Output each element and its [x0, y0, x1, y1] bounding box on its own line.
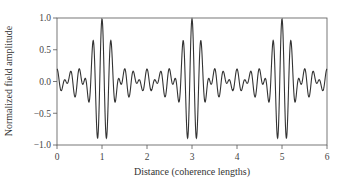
x-tick-label: 2 — [145, 152, 150, 162]
plot-frame — [57, 18, 327, 145]
x-tick-label: 0 — [55, 152, 60, 162]
y-tick-label: −0.5 — [34, 109, 51, 119]
x-axis: 0123456 — [55, 145, 330, 162]
y-tick-label: −1.0 — [34, 140, 51, 150]
x-tick-label: 3 — [190, 152, 195, 162]
y-axis: 1.00.50.0−0.5−1.0 — [34, 13, 57, 150]
y-tick-label: 1.0 — [39, 13, 51, 23]
x-tick-label: 1 — [100, 152, 105, 162]
y-tick-label: 0.5 — [39, 45, 51, 55]
y-tick-label: 0.0 — [39, 77, 51, 87]
x-tick-label: 5 — [280, 152, 285, 162]
x-tick-label: 6 — [325, 152, 330, 162]
y-axis-title: Normalized field amplitude — [3, 25, 14, 136]
field-amplitude-line — [57, 19, 327, 138]
x-tick-label: 4 — [235, 152, 240, 162]
chart: 1.00.50.0−0.5−1.0 0123456 Distance (cohe… — [0, 0, 343, 190]
x-axis-title: Distance (coherence lengths) — [134, 166, 250, 178]
